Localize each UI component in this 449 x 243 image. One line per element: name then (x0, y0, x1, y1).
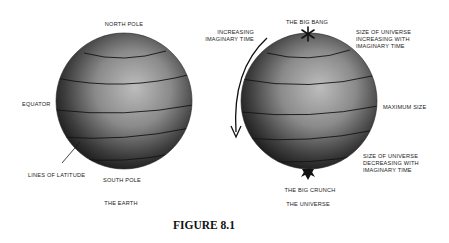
maximum-size-label: MAXIMUM SIZE (383, 104, 426, 111)
big-bang-label: THE BIG BANG (286, 19, 328, 26)
equator-label: EQUATOR (22, 101, 51, 108)
south-pole-label: SOUTH POLE (103, 177, 141, 184)
big-crunch-label: THE BIG CRUNCH (285, 187, 336, 194)
size-increasing-label: SIZE OF UNIVERSE INCREASING WITH IMAGINA… (356, 29, 411, 51)
universe-sphere (241, 33, 378, 169)
spike-icon (301, 169, 315, 180)
earth-title: THE EARTH (104, 200, 137, 207)
north-pole-label: NORTH POLE (105, 21, 143, 28)
increasing-time-label: INCREASING IMAGINARY TIME (202, 29, 254, 43)
earth-sphere (56, 33, 193, 169)
universe-title: THE UNIVERSE (286, 201, 330, 208)
lines-of-latitude-label: LINES OF LATITUDE (28, 172, 85, 179)
size-decreasing-label: SIZE OF UNIVERSE DECREASING WITH IMAGINA… (363, 153, 419, 175)
figure-caption: FIGURE 8.1 (173, 219, 235, 231)
latitude-pointer-line (62, 142, 80, 163)
